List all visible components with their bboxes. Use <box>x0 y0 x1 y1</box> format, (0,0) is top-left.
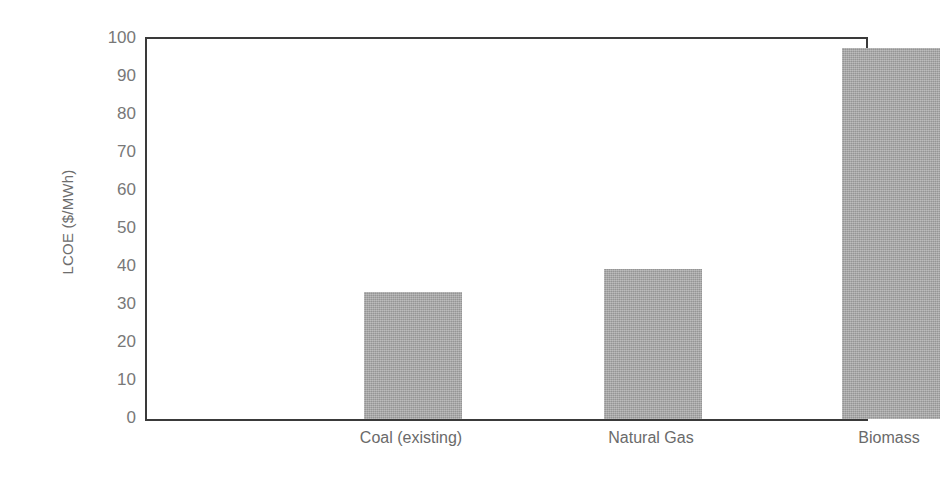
bars-layer <box>147 39 866 419</box>
y-tick-label: 10 <box>78 371 136 388</box>
y-tick-label: 40 <box>78 257 136 274</box>
y-tick-label: 70 <box>78 143 136 160</box>
x-tick-label: Biomass <box>858 428 919 447</box>
bar-0 <box>364 292 462 419</box>
y-tick-label: 90 <box>78 67 136 84</box>
y-tick-label: 50 <box>78 219 136 236</box>
y-tick-label: 100 <box>78 29 136 46</box>
bar-1 <box>604 269 702 419</box>
y-tick-label: 20 <box>78 333 136 350</box>
y-tick-label: 30 <box>78 295 136 312</box>
y-tick-label: 80 <box>78 105 136 122</box>
y-tick-label: 60 <box>78 181 136 198</box>
x-tick-label: Coal (existing) <box>360 428 462 447</box>
bar-2 <box>842 48 940 419</box>
x-tick-label: Natural Gas <box>608 428 693 447</box>
y-axis-tick-labels: 0102030405060708090100 <box>78 37 136 417</box>
plot-area <box>145 37 868 421</box>
y-tick-label: 0 <box>78 409 136 426</box>
x-axis-tick-labels: Coal (existing)Natural GasBiomass <box>145 428 864 456</box>
